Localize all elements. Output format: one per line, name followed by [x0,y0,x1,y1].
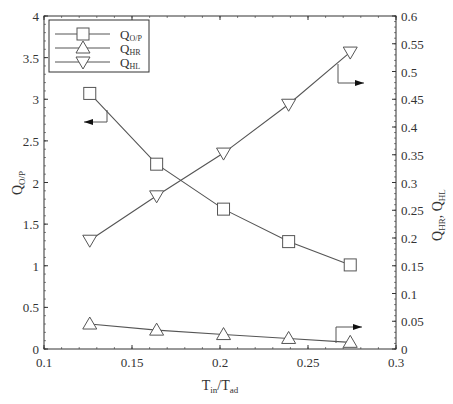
y-left-tick-label: 1 [33,259,40,274]
y-right-tick-label: 0.05 [401,314,424,329]
y-right-axis-label: QHR, QHL [430,189,447,241]
y-right-tick-label: 0.6 [401,9,418,24]
legend-marker-square [77,28,89,40]
arrow-line [84,110,107,122]
x-tick-label: 0.2 [212,355,228,370]
y-left-tick-label: 0.5 [23,300,39,315]
x-tick-label: 0.1 [36,355,52,370]
series-layer [83,47,357,347]
arrow-right-icon [353,324,362,330]
series-square [84,87,356,270]
y-right-tick-label: 0.25 [401,203,424,218]
y-right-tick-label: 0 [401,342,408,357]
y-right-tick-label: 0.1 [401,287,417,302]
data-point-triangle-down [282,99,296,111]
y-right-tick-label: 0.3 [401,176,417,191]
series-line [90,93,350,264]
x-tick-label: 0.15 [121,355,144,370]
y-left-tick-label: 3 [33,92,40,107]
y-left-tick-label: 2 [33,176,40,191]
chart: 0.10.150.20.250.300.511.522.533.5400.050… [0,0,453,404]
data-point-triangle-down [150,191,164,203]
data-point-triangle-up [150,323,164,335]
data-point-triangle-up [282,331,296,343]
data-point-square [344,259,356,271]
y-right-tick-label: 0.2 [401,231,417,246]
y-right-tick-label: 0.15 [401,259,424,274]
y-right-tick-label: 0.4 [401,120,418,135]
y-left-tick-label: 1.5 [23,217,39,232]
data-point-square [84,87,96,99]
data-point-triangle-down [343,47,357,59]
arrow-left-icon [84,119,93,125]
y-left-tick-label: 3.5 [23,51,39,66]
data-point-triangle-down [83,235,97,247]
data-point-square [283,236,295,248]
arrow-line [338,64,364,83]
y-left-axis-label: QO/P [10,171,27,195]
data-point-square [218,203,230,215]
x-tick-label: 0.3 [388,355,404,370]
y-left-tick-label: 4 [33,9,40,24]
y-right-tick-label: 0.55 [401,37,424,52]
data-point-square [151,158,163,170]
y-right-tick-label: 0.35 [401,148,424,163]
series-triangle-up [83,317,357,347]
data-point-triangle-up [217,328,231,340]
data-point-triangle-up [343,335,357,347]
y-left-tick-label: 2.5 [23,134,39,149]
y-right-tick-label: 0.5 [401,65,417,80]
legend: QO/PQHRQHL [49,20,149,72]
series-triangle-down [83,47,357,247]
y-right-tick-label: 0.45 [401,92,424,107]
arrow-right-icon [355,80,364,86]
x-axis-label: Tin/Tad [202,378,239,395]
data-point-triangle-down [217,148,231,160]
y-left-tick-label: 0 [33,342,40,357]
x-tick-label: 0.25 [297,355,320,370]
data-point-triangle-up [83,317,97,329]
